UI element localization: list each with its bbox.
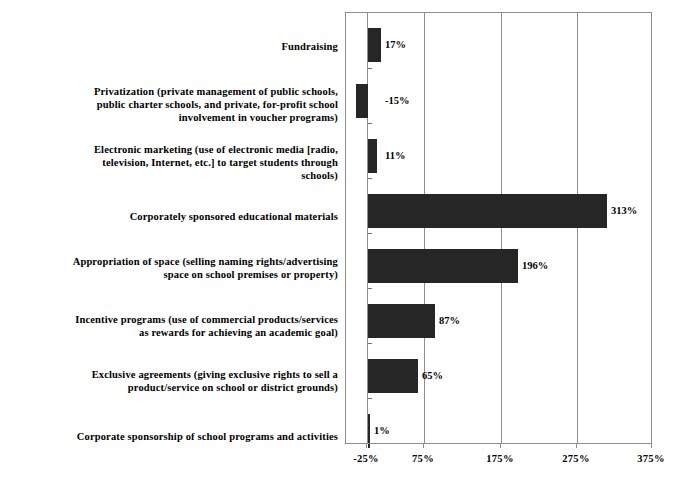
- label-line: Appropriation of space (selling naming r…: [8, 255, 338, 268]
- x-axis-label-375: 375%: [621, 452, 681, 465]
- bar-value-appropriation-of-space: 196%: [522, 260, 548, 272]
- bar-privatization: [356, 84, 368, 118]
- bar-value-exclusive-agreements: 65%: [422, 370, 443, 382]
- baseline-tick: [368, 233, 372, 234]
- label-line: involvement in voucher programs): [8, 111, 338, 124]
- x-axis-line: [345, 443, 652, 444]
- x-axis-label-175: 175%: [470, 452, 530, 465]
- bar-value-incentive-programs: 87%: [439, 315, 460, 327]
- bar-appropriation-of-space: [368, 249, 518, 283]
- category-label-exclusive-agreements: Exclusive agreements (giving exclusive r…: [8, 368, 338, 394]
- bar-fundraising: [368, 28, 381, 62]
- plot-area: 17% -15% 11% 313% 196% 87% 65% 1%: [345, 12, 652, 444]
- x-axis-tick: [500, 444, 501, 448]
- label-line: Corporate sponsorship of school programs…: [8, 430, 338, 443]
- label-line: Electronic marketing (use of electronic …: [8, 143, 338, 156]
- label-line: Privatization (private management of pub…: [8, 85, 338, 98]
- category-label-appropriation-of-space: Appropriation of space (selling naming r…: [8, 255, 338, 281]
- x-axis-tick: [423, 444, 424, 448]
- x-axis-tick: [576, 444, 577, 448]
- category-label-column: Fundraising Privatization (private manag…: [8, 12, 338, 444]
- category-label-electronic-marketing: Electronic marketing (use of electronic …: [8, 143, 338, 182]
- baseline-tick: [368, 343, 372, 344]
- label-line: Fundraising: [8, 40, 338, 53]
- x-axis-label-75: 75%: [393, 452, 453, 465]
- x-axis-label-275: 275%: [546, 452, 606, 465]
- label-line: space on school premises or property): [8, 268, 338, 281]
- label-line: Incentive programs (use of commercial pr…: [8, 313, 338, 326]
- label-line: schools): [8, 169, 338, 182]
- category-label-incentive-programs: Incentive programs (use of commercial pr…: [8, 313, 338, 339]
- x-axis-tick: [651, 444, 652, 448]
- label-line: television, Internet, etc.] to target st…: [8, 156, 338, 169]
- label-line: public charter schools, and private, for…: [8, 98, 338, 111]
- category-label-fundraising: Fundraising: [8, 40, 338, 53]
- bar-value-corporately-sponsored-materials: 313%: [611, 205, 637, 217]
- gridline-275: [577, 13, 578, 443]
- bar-value-privatization: -15%: [385, 95, 410, 107]
- baseline-tick: [368, 68, 372, 69]
- horizontal-bar-chart: Fundraising Privatization (private manag…: [0, 0, 687, 491]
- bar-value-corporate-sponsorship: 1%: [374, 425, 390, 437]
- bar-electronic-marketing: [368, 139, 377, 173]
- category-label-corporately-sponsored-materials: Corporately sponsored educational materi…: [8, 210, 338, 223]
- x-axis-label-minus-25: -25%: [336, 452, 396, 465]
- x-axis-tick: [366, 444, 367, 448]
- gridline-175: [501, 13, 502, 443]
- bar-corporately-sponsored-materials: [368, 194, 607, 228]
- bar-value-electronic-marketing: 11%: [385, 150, 405, 162]
- label-line: Corporately sponsored educational materi…: [8, 210, 338, 223]
- bar-exclusive-agreements: [368, 359, 418, 393]
- baseline-tick: [368, 398, 372, 399]
- baseline-tick: [368, 288, 372, 289]
- label-line: Exclusive agreements (giving exclusive r…: [8, 368, 338, 381]
- category-label-privatization: Privatization (private management of pub…: [8, 85, 338, 124]
- baseline-tick: [368, 178, 372, 179]
- label-line: product/service on school or district gr…: [8, 381, 338, 394]
- bar-value-fundraising: 17%: [385, 39, 406, 51]
- label-line: as rewards for achieving an academic goa…: [8, 326, 338, 339]
- bar-incentive-programs: [368, 304, 435, 338]
- category-label-corporate-sponsorship: Corporate sponsorship of school programs…: [8, 430, 338, 443]
- baseline-tick: [368, 123, 372, 124]
